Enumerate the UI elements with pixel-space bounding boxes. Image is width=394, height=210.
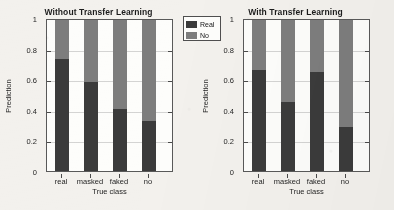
y-tick-label: 0.8 xyxy=(224,45,234,54)
y-tick-label: 0 xyxy=(33,168,37,177)
legend-entry-no: No xyxy=(186,30,218,40)
x-tick-label: real xyxy=(252,177,265,186)
x-tick-label: masked xyxy=(274,177,300,186)
legend-entry-real: Real xyxy=(186,19,218,29)
bar-segment-real xyxy=(142,121,156,171)
bar-segment-real xyxy=(84,82,98,171)
panel-without-transfer-learning: Without Transfer Learning Prediction 0 0… xyxy=(0,0,197,210)
y-tick-label: 0.6 xyxy=(224,76,234,85)
bar-segment-real xyxy=(339,127,353,171)
bar-segment-real xyxy=(252,70,266,171)
panel-with-transfer-learning: With Transfer Learning Prediction 0 0.2 … xyxy=(197,0,394,210)
bar-segment-no xyxy=(281,20,295,102)
legend-swatch-real-icon xyxy=(186,21,197,28)
bars-container xyxy=(47,20,172,171)
bar-segment-no xyxy=(113,20,127,109)
x-tick-label: real xyxy=(55,177,68,186)
bars-container xyxy=(244,20,369,171)
bar-segment-real xyxy=(310,72,324,171)
bar-segment-no xyxy=(252,20,266,70)
y-axis-tick-labels: 0 0.2 0.4 0.6 0.8 1 xyxy=(197,19,241,172)
bar-masked xyxy=(281,20,295,171)
bar-no xyxy=(339,20,353,171)
x-axis-tick-labels: real masked faked no xyxy=(243,174,370,186)
bar-segment-no xyxy=(310,20,324,72)
y-tick-label: 0.4 xyxy=(224,106,234,115)
stacked-bar-figure: Without Transfer Learning Prediction 0 0… xyxy=(0,0,394,210)
y-axis-tick-labels: 0 0.2 0.4 0.6 0.8 1 xyxy=(0,19,44,172)
legend-label-no: No xyxy=(200,32,209,39)
bar-faked xyxy=(113,20,127,171)
legend-label-real: Real xyxy=(200,21,214,28)
panel-title: With Transfer Learning xyxy=(197,7,394,17)
x-axis-tick-labels: real masked faked no xyxy=(46,174,173,186)
bar-segment-real xyxy=(55,59,69,171)
bar-no xyxy=(142,20,156,171)
legend-swatch-no-icon xyxy=(186,32,197,39)
y-tick-label: 1 xyxy=(33,15,37,24)
y-tick-label: 1 xyxy=(230,15,234,24)
plot-area xyxy=(46,19,173,172)
bar-masked xyxy=(84,20,98,171)
y-tick-label: 0.2 xyxy=(27,137,37,146)
plot-area xyxy=(243,19,370,172)
bar-segment-real xyxy=(113,109,127,171)
bar-real xyxy=(55,20,69,171)
x-tick-label: masked xyxy=(77,177,103,186)
y-tick-label: 0 xyxy=(230,168,234,177)
x-tick-label: faked xyxy=(307,177,325,186)
x-axis-title: True class xyxy=(46,187,173,196)
bar-segment-no xyxy=(339,20,353,127)
bar-real xyxy=(252,20,266,171)
x-tick-label: no xyxy=(144,177,152,186)
y-tick-label: 0.6 xyxy=(27,76,37,85)
chart-legend: Real No xyxy=(183,16,221,41)
y-tick-label: 0.8 xyxy=(27,45,37,54)
panel-title: Without Transfer Learning xyxy=(0,7,197,17)
bar-segment-real xyxy=(281,102,295,171)
x-axis-title: True class xyxy=(243,187,370,196)
y-tick-label: 0.2 xyxy=(224,137,234,146)
y-tick-label: 0.4 xyxy=(27,106,37,115)
bar-segment-no xyxy=(84,20,98,82)
x-tick-label: no xyxy=(341,177,349,186)
bar-segment-no xyxy=(55,20,69,59)
bar-faked xyxy=(310,20,324,171)
x-tick-label: faked xyxy=(110,177,128,186)
bar-segment-no xyxy=(142,20,156,121)
